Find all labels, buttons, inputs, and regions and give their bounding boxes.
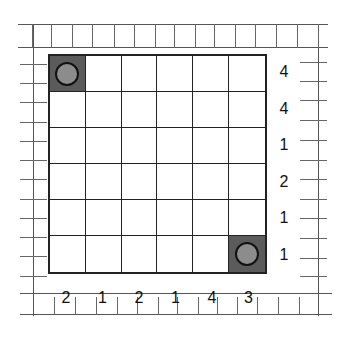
row-clue: 1 bbox=[274, 245, 294, 265]
row-clue: 2 bbox=[274, 172, 294, 192]
grid-cell-r4-c0[interactable] bbox=[50, 200, 86, 236]
grid-cell-r2-c0[interactable] bbox=[50, 128, 86, 164]
frame-line bbox=[318, 24, 319, 48]
row-clue: 4 bbox=[274, 99, 294, 119]
grid-cell-r4-c3[interactable] bbox=[157, 200, 193, 236]
frame-line bbox=[20, 276, 47, 277]
frame-line bbox=[20, 237, 47, 238]
frame-line bbox=[20, 314, 332, 315]
frame-line bbox=[300, 276, 327, 277]
column-clue: 4 bbox=[202, 288, 222, 308]
grid-cell-r1-c5[interactable] bbox=[229, 92, 265, 128]
frame-line bbox=[20, 83, 47, 84]
frame-line bbox=[300, 179, 327, 180]
grid-cell-r0-c1[interactable] bbox=[86, 56, 122, 92]
circle-piece-icon bbox=[235, 242, 259, 266]
grid-cell-r3-c4[interactable] bbox=[193, 164, 229, 200]
puzzle-grid bbox=[48, 54, 267, 274]
grid-cell-r1-c0[interactable] bbox=[50, 92, 86, 128]
frame-line bbox=[20, 141, 47, 142]
frame-line bbox=[195, 24, 196, 48]
row-clue: 4 bbox=[274, 62, 294, 82]
frame-line bbox=[235, 24, 236, 48]
frame-line bbox=[300, 62, 327, 63]
grid-cell-r4-c5[interactable] bbox=[229, 200, 265, 236]
grid-cell-r5-c2[interactable] bbox=[122, 236, 158, 272]
frame-line bbox=[318, 24, 319, 316]
frame-line bbox=[276, 24, 277, 48]
frame-line bbox=[20, 218, 47, 219]
grid-cell-r4-c1[interactable] bbox=[86, 200, 122, 236]
frame-line bbox=[134, 24, 135, 48]
column-clue: 3 bbox=[239, 288, 259, 308]
circle-piece-icon bbox=[55, 62, 79, 86]
frame-line bbox=[155, 24, 156, 48]
grid-cell-r5-c3[interactable] bbox=[157, 236, 193, 272]
frame-line bbox=[20, 64, 47, 65]
column-clue: 1 bbox=[93, 288, 113, 308]
frame-line bbox=[20, 102, 47, 103]
frame-line bbox=[72, 24, 73, 48]
frame-line bbox=[300, 199, 327, 200]
grid-cell-r1-c1[interactable] bbox=[86, 92, 122, 128]
frame-line bbox=[54, 297, 55, 315]
grid-cell-r0-c5[interactable] bbox=[229, 56, 265, 92]
frame-line bbox=[300, 100, 327, 101]
frame-line bbox=[51, 24, 52, 48]
grid-cell-r4-c2[interactable] bbox=[122, 200, 158, 236]
grid-cell-r3-c2[interactable] bbox=[122, 164, 158, 200]
frame-line bbox=[18, 47, 328, 48]
column-clue: 1 bbox=[166, 288, 186, 308]
frame-line bbox=[300, 120, 327, 121]
grid-cell-r2-c3[interactable] bbox=[157, 128, 193, 164]
frame-line bbox=[20, 160, 47, 161]
grid-cell-r2-c4[interactable] bbox=[193, 128, 229, 164]
grid-cell-r5-c1[interactable] bbox=[86, 236, 122, 272]
frame-line bbox=[297, 24, 298, 48]
grid-cell-r3-c5[interactable] bbox=[229, 164, 265, 200]
frame-line bbox=[18, 24, 328, 25]
frame-line bbox=[300, 160, 327, 161]
grid-cell-r1-c2[interactable] bbox=[122, 92, 158, 128]
frame-line bbox=[20, 256, 47, 257]
grid-cell-r3-c0[interactable] bbox=[50, 164, 86, 200]
grid-cell-r1-c3[interactable] bbox=[157, 92, 193, 128]
column-clue: 2 bbox=[129, 288, 149, 308]
frame-line bbox=[300, 258, 327, 259]
grid-cell-r5-c4[interactable] bbox=[193, 236, 229, 272]
frame-line bbox=[158, 297, 159, 315]
frame-line bbox=[33, 24, 34, 316]
grid-cell-r3-c1[interactable] bbox=[86, 164, 122, 200]
frame-line bbox=[20, 199, 47, 200]
grid-cell-r2-c5[interactable] bbox=[229, 128, 265, 164]
grid-cell-r0-c0[interactable] bbox=[50, 56, 86, 92]
grid-cell-r0-c2[interactable] bbox=[122, 56, 158, 92]
frame-line bbox=[114, 24, 115, 48]
grid-cell-r0-c4[interactable] bbox=[193, 56, 229, 92]
grid-cell-r1-c4[interactable] bbox=[193, 92, 229, 128]
grid-cell-r2-c2[interactable] bbox=[122, 128, 158, 164]
grid-cell-r5-c5[interactable] bbox=[229, 236, 265, 272]
frame-line bbox=[299, 297, 300, 315]
frame-line bbox=[117, 297, 118, 315]
grid-cell-r2-c1[interactable] bbox=[86, 128, 122, 164]
frame-line bbox=[92, 24, 93, 48]
grid-cell-r3-c3[interactable] bbox=[157, 164, 193, 200]
frame-line bbox=[198, 297, 199, 315]
frame-line bbox=[300, 218, 327, 219]
frame-line bbox=[20, 122, 47, 123]
row-clue: 1 bbox=[274, 208, 294, 228]
grid-cell-r5-c0[interactable] bbox=[50, 236, 86, 272]
frame-line bbox=[300, 238, 327, 239]
grid-cell-r4-c4[interactable] bbox=[193, 200, 229, 236]
frame-line bbox=[214, 24, 215, 48]
row-clue: 1 bbox=[274, 135, 294, 155]
frame-line bbox=[255, 24, 256, 48]
frame-line bbox=[300, 81, 327, 82]
frame-line bbox=[20, 179, 47, 180]
frame-line bbox=[174, 24, 175, 48]
frame-line bbox=[300, 140, 327, 141]
column-clue: 2 bbox=[56, 288, 76, 308]
grid-cell-r0-c3[interactable] bbox=[157, 56, 193, 92]
frame-line bbox=[278, 297, 279, 315]
